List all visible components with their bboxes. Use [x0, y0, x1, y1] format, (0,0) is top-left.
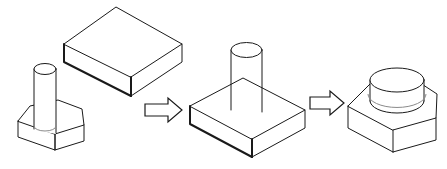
part-nut-with-boss — [0, 0, 447, 169]
assembly-diagram-canvas — [0, 0, 447, 169]
